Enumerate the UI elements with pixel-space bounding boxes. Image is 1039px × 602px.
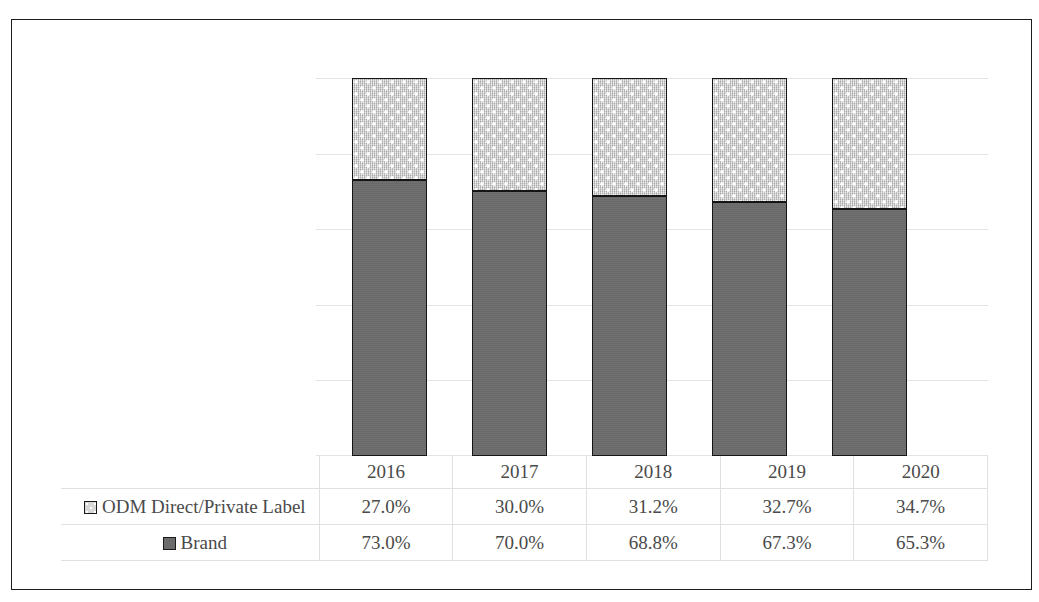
cell-odm-2019: 32.7% xyxy=(720,489,854,525)
table-header-row: 2016 2017 2018 2019 2020 xyxy=(61,456,988,489)
table-header-2016: 2016 xyxy=(319,456,453,489)
cell-brand-2017: 70.0% xyxy=(453,525,587,561)
bar-segment-brand-2020[interactable] xyxy=(832,209,907,456)
cell-odm-2018: 31.2% xyxy=(586,489,720,525)
bar-segment-odm-2016[interactable] xyxy=(352,78,427,180)
bar-segment-odm-2020[interactable] xyxy=(832,78,907,209)
table-header-blank xyxy=(61,456,319,489)
legend-swatch-odm-icon xyxy=(84,501,97,514)
legend-swatch-brand-icon xyxy=(163,537,176,550)
bar-segment-brand-2019[interactable] xyxy=(712,202,787,456)
table-header-2020: 2020 xyxy=(854,456,988,489)
plot-area xyxy=(316,78,988,456)
cell-brand-2020: 65.3% xyxy=(854,525,988,561)
legend-item-odm: ODM Direct/Private Label xyxy=(61,489,319,525)
legend-label-odm: ODM Direct/Private Label xyxy=(102,496,306,517)
legend-label-brand: Brand xyxy=(181,532,227,553)
table-header-2018: 2018 xyxy=(586,456,720,489)
bar-segment-brand-2017[interactable] xyxy=(472,191,547,456)
cell-odm-2017: 30.0% xyxy=(453,489,587,525)
bar-segment-brand-2018[interactable] xyxy=(592,196,667,456)
chart-frame: 100.0% 80.0% 60.0% 40.0% 20.0% 0.0% xyxy=(11,19,1032,590)
cell-odm-2016: 27.0% xyxy=(319,489,453,525)
table-header-2019: 2019 xyxy=(720,456,854,489)
cell-brand-2016: 73.0% xyxy=(319,525,453,561)
bar-segment-odm-2017[interactable] xyxy=(472,78,547,191)
cell-brand-2019: 67.3% xyxy=(720,525,854,561)
bar-segment-odm-2019[interactable] xyxy=(712,78,787,202)
cell-odm-2020: 34.7% xyxy=(854,489,988,525)
bar-segment-brand-2016[interactable] xyxy=(352,180,427,456)
table-row-brand: Brand 73.0% 70.0% 68.8% 67.3% 65.3% xyxy=(61,525,988,561)
data-table: 2016 2017 2018 2019 2020 ODM Direct/Priv… xyxy=(61,456,988,561)
bar-segment-odm-2018[interactable] xyxy=(592,78,667,196)
table-header-2017: 2017 xyxy=(453,456,587,489)
legend-item-brand: Brand xyxy=(61,525,319,561)
cell-brand-2018: 68.8% xyxy=(586,525,720,561)
table-row-odm: ODM Direct/Private Label 27.0% 30.0% 31.… xyxy=(61,489,988,525)
